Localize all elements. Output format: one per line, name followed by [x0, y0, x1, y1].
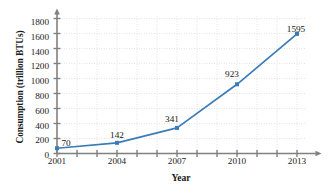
data-point-marker[interactable] — [295, 32, 299, 36]
plot-area — [0, 0, 328, 195]
x-axis-arrow-icon — [316, 151, 322, 157]
data-line — [57, 34, 297, 148]
data-point-marker[interactable] — [235, 82, 239, 86]
y-axis-arrow-icon — [54, 9, 60, 15]
line-chart: Consumption (trillion BTUs) Year 1800 16… — [0, 0, 328, 195]
data-point-marker[interactable] — [175, 126, 179, 130]
data-point-marker[interactable] — [55, 146, 59, 150]
data-point-marker[interactable] — [115, 141, 119, 145]
